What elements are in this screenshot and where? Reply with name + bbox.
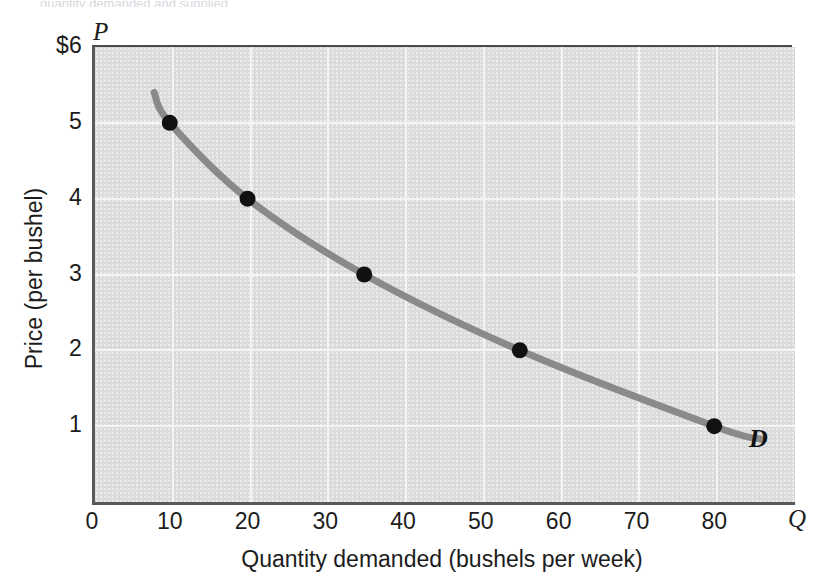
- y-axis-tick-label: $6: [12, 32, 82, 59]
- gridline-horizontal: [95, 198, 795, 200]
- x-axis-tick-label: 10: [130, 508, 210, 535]
- quantity-axis-letter: Q: [788, 505, 806, 533]
- gridline-horizontal: [95, 122, 795, 124]
- gridline-horizontal: [95, 349, 795, 351]
- x-axis-tick-label: 50: [441, 508, 521, 535]
- x-axis-tick-label: 20: [208, 508, 288, 535]
- x-axis-tick-label: 80: [674, 508, 754, 535]
- price-axis-letter: P: [93, 18, 108, 46]
- x-axis-tick-label: 60: [519, 508, 599, 535]
- demand-curve-figure: quantity demanded and supplied $654321 0…: [0, 0, 822, 584]
- cropped-caption-artifact: quantity demanded and supplied: [40, 0, 340, 7]
- x-axis-tick-label: 30: [285, 508, 365, 535]
- x-axis-tick-label: 70: [596, 508, 676, 535]
- demand-curve-label: D: [749, 424, 768, 454]
- gridline-horizontal: [95, 425, 795, 427]
- plot-area: [92, 47, 795, 505]
- x-axis-title: Quantity demanded (bushels per week): [92, 546, 792, 573]
- x-axis-tick-label: 40: [363, 508, 443, 535]
- x-axis-tick-label: 0: [52, 508, 132, 535]
- y-axis-title: Price (per bushel): [21, 129, 48, 429]
- gridline-horizontal: [95, 274, 795, 276]
